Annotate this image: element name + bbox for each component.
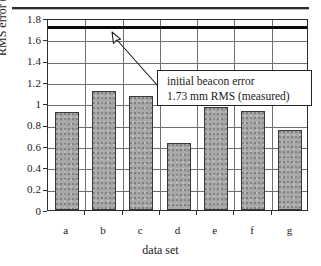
y-tick-label: 1.8 <box>27 14 41 25</box>
x-axis-title: data set <box>0 244 321 256</box>
x-tick-mark <box>122 211 123 215</box>
bar-a <box>55 112 79 210</box>
bar-g <box>278 130 302 211</box>
gridline-horizontal <box>48 41 307 42</box>
gridline-vertical <box>272 20 273 210</box>
y-axis-title: RMS error (millimeters) <box>0 0 8 56</box>
bar-d <box>167 143 191 210</box>
y-tick-label: 1.6 <box>27 35 41 46</box>
y-tick-mark <box>43 147 47 148</box>
gridline-horizontal <box>48 127 307 128</box>
reference-line-initial-beacon-error <box>48 26 307 29</box>
gridline-vertical <box>234 20 235 210</box>
x-tick-label-d: d <box>158 225 198 236</box>
gridline-vertical <box>160 20 161 210</box>
y-tick-mark <box>43 211 47 212</box>
y-tick-mark <box>43 83 47 84</box>
y-tick-mark <box>43 62 47 63</box>
x-tick-label-f: f <box>232 225 272 236</box>
x-tick-label-a: a <box>46 225 86 236</box>
gridline-vertical <box>123 20 124 210</box>
gridline-vertical <box>197 20 198 210</box>
bar-b <box>92 91 116 211</box>
x-tick-mark <box>84 211 85 215</box>
y-tick-label: 1 <box>35 99 41 110</box>
gridline-vertical <box>85 20 86 210</box>
y-tick-label: 0.4 <box>27 163 41 174</box>
callout-line-2: 1.73 mm RMS (measured) <box>167 89 311 104</box>
y-tick-mark <box>43 190 47 191</box>
y-tick-label: 0.6 <box>27 142 41 153</box>
x-tick-mark <box>271 211 272 215</box>
y-tick-label: 1.4 <box>27 56 41 67</box>
y-tick-mark <box>43 104 47 105</box>
y-tick-label: 0.8 <box>27 120 41 131</box>
x-tick-mark <box>233 211 234 215</box>
y-tick-mark <box>43 40 47 41</box>
bar-f <box>241 111 265 210</box>
figure-bar-chart-rms-error: 00.20.40.60.811.21.41.61.8 abcdefg RMS e… <box>0 0 321 266</box>
x-tick-label-e: e <box>195 225 235 236</box>
y-tick-mark <box>43 168 47 169</box>
annotation-callout: initial beacon error 1.73 mm RMS (measur… <box>157 70 312 106</box>
x-tick-label-c: c <box>120 225 160 236</box>
y-tick-mark <box>43 19 47 20</box>
plot-area <box>47 19 308 211</box>
gridline-horizontal <box>48 63 307 64</box>
x-tick-label-g: g <box>269 225 309 236</box>
callout-line-1: initial beacon error <box>167 74 311 89</box>
y-tick-label: 0.2 <box>27 184 41 195</box>
y-tick-mark <box>43 126 47 127</box>
page-top-rule <box>12 7 309 9</box>
bar-c <box>129 96 153 210</box>
x-tick-label-b: b <box>83 225 123 236</box>
x-tick-mark <box>196 211 197 215</box>
bar-e <box>204 107 228 211</box>
x-tick-mark <box>159 211 160 215</box>
y-tick-label: 0 <box>35 206 41 217</box>
y-tick-label: 1.2 <box>27 78 41 89</box>
